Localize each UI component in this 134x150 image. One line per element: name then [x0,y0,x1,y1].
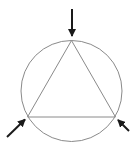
bottom-left-force-arrow-icon [7,120,25,138]
bottom-right-force-arrow-icon [118,120,129,131]
triangle [28,41,116,118]
diagram-canvas [0,0,134,150]
circle [21,41,122,142]
